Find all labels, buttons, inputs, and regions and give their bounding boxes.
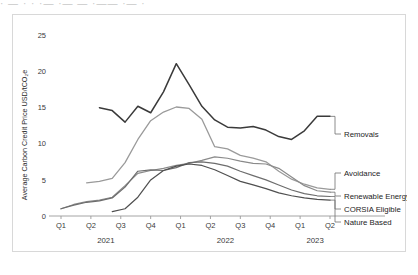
x-year-label: 2022 — [217, 236, 234, 245]
x-tick-label: Q1 — [176, 221, 186, 230]
y-tick-label: 10 — [38, 139, 46, 148]
y-tick-label: 0 — [42, 212, 46, 221]
y-axis-tick-labels: 0510152025 — [38, 31, 46, 221]
x-axis-year-labels: 202120222023 — [97, 236, 324, 245]
legend-leader-line — [330, 200, 341, 222]
x-tick-label: Q2 — [205, 221, 215, 230]
x-tick-label: Q4 — [265, 221, 275, 230]
x-axis-tick-labels: Q1Q2Q3Q4Q1Q2Q3Q4Q1Q2 — [56, 216, 335, 230]
legend-group: RemovalsAvoidanceRenewable EnergyCORSIA … — [330, 116, 407, 226]
legend-label: Avoidance — [344, 169, 380, 178]
x-tick-label: Q3 — [116, 221, 126, 230]
x-tick-label: Q3 — [235, 221, 245, 230]
legend-label: Nature Based — [344, 218, 392, 227]
x-year-label: 2023 — [306, 236, 323, 245]
series-line — [99, 64, 330, 140]
y-tick-label: 5 — [42, 176, 46, 185]
series-line — [112, 164, 330, 212]
y-axis-title-text: Average Carbon Credit Price USD/tCO₂e — [20, 70, 29, 201]
line-chart: 0510152025 Average Carbon Credit Price U… — [13, 15, 407, 253]
legend-leader-line — [330, 173, 341, 189]
y-axis-title: Average Carbon Credit Price USD/tCO₂e — [20, 70, 29, 201]
x-tick-label: Q4 — [146, 221, 156, 230]
series-line — [61, 162, 330, 209]
legend-leader-line — [330, 197, 341, 209]
legend-label: CORSIA Eligible — [344, 205, 401, 214]
legend-label: Removals — [344, 130, 379, 139]
y-tick-label: 20 — [38, 67, 46, 76]
y-tick-label: 25 — [38, 31, 46, 40]
legend-label: Renewable Energy — [344, 192, 407, 201]
figure-page: · — · · ·— ·— — ·—— ·— · 0510152025 Aver… — [0, 0, 418, 275]
x-tick-label: Q2 — [86, 221, 96, 230]
legend-leader-line — [330, 192, 341, 196]
x-tick-label: Q1 — [295, 221, 305, 230]
cropped-header-text: · — · · ·— ·— — ·—— ·— · — [0, 0, 418, 14]
series-line — [87, 107, 330, 189]
data-series-group — [61, 64, 330, 212]
x-year-label: 2021 — [97, 236, 114, 245]
legend-leader-line — [330, 116, 341, 134]
x-tick-label: Q2 — [325, 221, 335, 230]
x-tick-label: Q1 — [56, 221, 66, 230]
y-tick-label: 15 — [38, 103, 46, 112]
chart-frame: 0510152025 Average Carbon Credit Price U… — [12, 14, 406, 252]
